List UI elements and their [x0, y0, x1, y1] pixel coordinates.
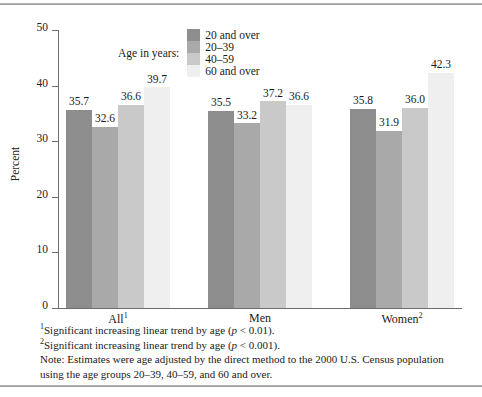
bar-value-label: 39.7: [147, 74, 167, 86]
y-tick-mark: [52, 141, 59, 142]
y-tick-mark: [52, 308, 59, 309]
bar[interactable]: 35.8: [350, 109, 376, 308]
y-tick-label: 0: [0, 300, 48, 312]
y-tick-label: 20: [0, 189, 48, 201]
footnote-note: Note: Estimates were age adjusted by the…: [40, 352, 452, 381]
y-tick-mark: [52, 197, 59, 198]
bar[interactable]: 32.6: [92, 127, 118, 308]
top-divider: [0, 3, 482, 5]
bar[interactable]: 42.3: [428, 73, 454, 308]
y-tick-mark: [52, 30, 59, 31]
y-axis-line: [58, 30, 59, 309]
bar-chart: Percent 50403020100 Age in years: 20 and…: [0, 8, 482, 320]
bar-value-label: 35.8: [353, 95, 373, 107]
bar[interactable]: 37.2: [260, 101, 286, 308]
y-tick-mark: [52, 252, 59, 253]
legend-swatch-icon: [187, 29, 200, 41]
category-footnote-mark: 2: [419, 311, 423, 320]
bar-value-label: 36.0: [405, 94, 425, 106]
y-tick-label: 10: [0, 244, 48, 256]
x-axis-line: [58, 308, 462, 309]
bar-value-label: 37.2: [263, 88, 283, 100]
bar-value-label: 36.6: [289, 91, 309, 103]
bar-value-label: 36.6: [121, 91, 141, 103]
footnote-2-text-b: < 0.001).: [237, 339, 280, 351]
bar-group: 35.831.936.042.3: [350, 30, 454, 308]
bar-group: 35.533.237.236.6: [208, 30, 312, 308]
footnote-1: 1Significant increasing linear trend by …: [40, 322, 452, 337]
bar[interactable]: 36.6: [118, 105, 144, 308]
legend-swatch-icon: [187, 65, 200, 77]
footnote-1-text-a: Significant increasing linear trend by a…: [44, 324, 232, 336]
bar-value-label: 33.2: [237, 110, 257, 122]
category-footnote-mark: 1: [124, 311, 128, 320]
bar-value-label: 35.5: [211, 97, 231, 109]
footnote-2: 2Significant increasing linear trend by …: [40, 337, 452, 352]
footnote-1-text-b: < 0.01).: [237, 324, 274, 336]
footnotes-block: 1Significant increasing linear trend by …: [40, 322, 452, 381]
bar[interactable]: 31.9: [376, 131, 402, 308]
legend-swatch-icon: [187, 41, 200, 53]
footnote-2-text-a: Significant increasing linear trend by a…: [44, 339, 232, 351]
bar[interactable]: 39.7: [144, 87, 170, 308]
bottom-divider: [0, 385, 482, 387]
bar-value-label: 31.9: [379, 117, 399, 129]
bar[interactable]: 36.0: [402, 108, 428, 308]
y-tick-label: 30: [0, 133, 48, 145]
y-tick-label: 50: [0, 22, 48, 34]
bar[interactable]: 35.5: [208, 111, 234, 308]
bar[interactable]: 33.2: [234, 123, 260, 308]
bar-value-label: 32.6: [95, 113, 115, 125]
y-tick-mark: [52, 86, 59, 87]
legend-swatch-icon: [187, 53, 200, 65]
bar-value-label: 42.3: [431, 59, 451, 71]
bar-value-label: 35.7: [69, 96, 89, 108]
y-tick-label: 40: [0, 78, 48, 90]
bar-group: 35.732.636.639.7: [66, 30, 170, 308]
bar[interactable]: 35.7: [66, 110, 92, 308]
bar[interactable]: 36.6: [286, 105, 312, 308]
